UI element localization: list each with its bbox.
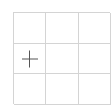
- grid-cell-r1-c0[interactable]: [14, 44, 46, 74]
- grid-selector: [13, 12, 110, 104]
- grid-cell-r0-c0[interactable]: [14, 13, 46, 44]
- grid-cell-r0-c2[interactable]: [79, 13, 111, 44]
- grid-cell-r2-c2[interactable]: [79, 74, 111, 105]
- grid-cell-r1-c1[interactable]: [46, 44, 79, 74]
- grid-cell-r0-c1[interactable]: [46, 13, 79, 44]
- grid-cell-r1-c2[interactable]: [79, 44, 111, 74]
- plus-icon[interactable]: [22, 50, 38, 67]
- grid-cell-r2-c1[interactable]: [46, 74, 79, 105]
- grid-cell-r2-c0[interactable]: [14, 74, 46, 105]
